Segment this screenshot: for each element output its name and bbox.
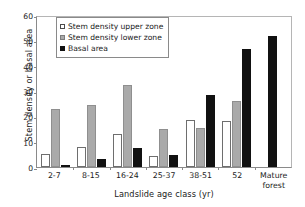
x-tick-label: 16-24 xyxy=(109,171,146,190)
bar-group xyxy=(182,17,218,167)
bar-lower xyxy=(232,101,241,167)
bar-lower xyxy=(51,109,60,167)
bar-chart-figure: Stem density or basal area 0102030405060… xyxy=(0,0,305,207)
legend-swatch-icon xyxy=(60,46,65,51)
x-tick-label: 52 xyxy=(219,171,256,190)
bar-group xyxy=(218,17,254,167)
y-tick-label: 10 xyxy=(15,140,33,148)
x-axis-title: Landslide age class (yr) xyxy=(36,189,292,199)
bar-upper xyxy=(149,156,158,167)
bar-basal xyxy=(61,165,70,167)
legend-swatch-icon xyxy=(60,35,65,40)
x-tick-label: 2-7 xyxy=(36,171,73,190)
chart-legend: Stem density upper zoneStem density lowe… xyxy=(56,17,169,58)
bar-basal xyxy=(206,95,215,167)
bar-upper xyxy=(77,147,86,167)
bar-group xyxy=(255,17,291,167)
bar-basal xyxy=(242,49,251,167)
x-tick-label: 38-51 xyxy=(182,171,219,190)
y-tick-label: 30 xyxy=(15,89,33,97)
bar-lower xyxy=(196,128,205,167)
bar-upper xyxy=(41,154,50,167)
bar-upper xyxy=(222,121,231,167)
x-axis-tick-labels: 2-78-1516-2425-3738-5152Matureforest xyxy=(36,171,292,190)
x-tick-label: Matureforest xyxy=(255,171,292,190)
y-tick-mark xyxy=(34,169,37,170)
bar-basal xyxy=(97,159,106,167)
bar-lower xyxy=(159,129,168,168)
x-tick-label: 8-15 xyxy=(73,171,110,190)
legend-item: Stem density upper zone xyxy=(60,21,163,32)
legend-swatch-icon xyxy=(60,24,65,29)
legend-label: Stem density lower zone xyxy=(68,33,162,42)
y-tick-label: 60 xyxy=(15,13,33,21)
y-tick-label: 20 xyxy=(15,115,33,123)
bar-upper xyxy=(186,120,195,167)
y-tick-label: 40 xyxy=(15,64,33,72)
legend-label: Stem density upper zone xyxy=(68,22,163,31)
legend-item: Stem density lower zone xyxy=(60,32,163,43)
bar-lower xyxy=(123,85,132,167)
bar-upper xyxy=(113,134,122,167)
y-tick-label: 50 xyxy=(15,39,33,47)
legend-label: Basal area xyxy=(68,44,108,53)
bar-basal xyxy=(169,155,178,167)
bar-basal xyxy=(268,36,277,167)
legend-item: Basal area xyxy=(60,43,163,54)
y-tick-label: 0 xyxy=(15,165,33,173)
x-tick-label: 25-37 xyxy=(146,171,183,190)
bar-basal xyxy=(133,148,142,167)
bar-lower xyxy=(87,105,96,167)
